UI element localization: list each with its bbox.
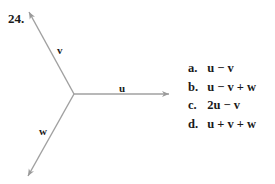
vector-v-label: v — [57, 44, 63, 56]
vector-v-arrow — [29, 12, 74, 94]
vector-w-arrow — [28, 94, 74, 176]
option-letter: d. — [188, 115, 204, 134]
vector-w-label: w — [39, 125, 47, 137]
option-c: c. 2u − v — [188, 96, 256, 115]
option-b: b. u − v + w — [188, 78, 256, 97]
option-letter: b. — [188, 78, 204, 97]
answer-options: a. u − v b. u − v + w c. 2u − v d. u + v… — [188, 59, 256, 133]
vector-u-label: u — [119, 82, 125, 94]
option-a: a. u − v — [188, 59, 256, 78]
option-expression: u + v + w — [207, 117, 256, 131]
option-expression: 2u − v — [207, 98, 240, 112]
option-letter: c. — [188, 96, 204, 115]
option-d: d. u + v + w — [188, 115, 256, 134]
option-letter: a. — [188, 59, 204, 78]
option-expression: u − v + w — [207, 80, 256, 94]
option-expression: u − v — [207, 61, 234, 75]
